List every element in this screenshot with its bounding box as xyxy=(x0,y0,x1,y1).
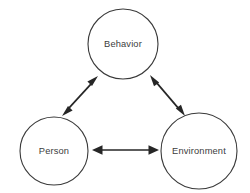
node-person-label: Person xyxy=(39,146,69,156)
connector-behavior-environment-line xyxy=(155,80,181,110)
node-behavior[interactable]: Behavior xyxy=(88,9,158,79)
node-environment[interactable]: Environment xyxy=(161,113,237,189)
connector-person-environment-arrowhead-start xyxy=(92,145,103,154)
node-person[interactable]: Person xyxy=(20,117,88,185)
diagram-canvas: Behavior Person Environment xyxy=(0,0,250,193)
connector-person-behavior-arrowhead-start xyxy=(62,106,73,116)
triadic-reciprocal-determinism-diagram: Behavior Person Environment xyxy=(0,0,250,193)
connector-person-behavior-line xyxy=(68,82,93,109)
connector-person-behavior-arrowhead-end xyxy=(87,76,98,86)
connector-person-environment-arrowhead-end xyxy=(149,145,160,154)
connector-person-behavior xyxy=(62,76,98,116)
node-behavior-label: Behavior xyxy=(104,39,142,49)
connector-person-environment xyxy=(92,145,159,154)
connector-behavior-environment xyxy=(150,75,185,116)
node-environment-label: Environment xyxy=(172,146,226,156)
